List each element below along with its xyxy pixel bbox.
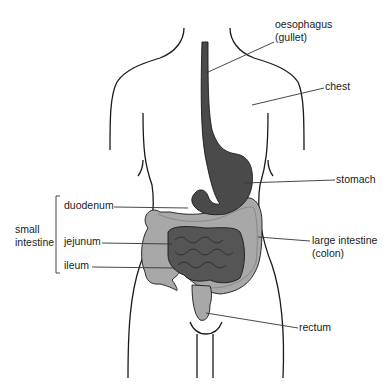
label-stomach: stomach — [336, 173, 376, 185]
label-oesophagus: oesophagus — [275, 18, 332, 30]
label-colon: (colon) — [312, 247, 344, 259]
label-duodenum: duodenum — [64, 199, 114, 211]
label-ileum: ileum — [64, 259, 89, 271]
label-jejunum: jejunum — [64, 235, 101, 247]
label-small-intestine-line2: intestine — [15, 236, 54, 248]
label-gullet: (gullet) — [275, 31, 307, 43]
oesophagus-stomach-shape — [192, 42, 253, 215]
label-chest: chest — [325, 80, 350, 92]
label-rectum: rectum — [299, 321, 331, 333]
label-small-intestine-line1: small — [15, 223, 40, 235]
label-large-intestine: large intestine — [312, 234, 377, 246]
small-intestine-shape — [168, 227, 245, 283]
digestive-system-illustration — [0, 0, 391, 388]
